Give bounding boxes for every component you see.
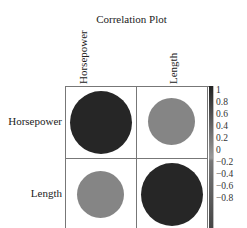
- colorbar-tick: 0.4: [216, 121, 228, 131]
- colorbar-tick: −0.4: [216, 169, 233, 179]
- chart-title: Correlation Plot: [0, 13, 247, 25]
- cell-length-length: [137, 159, 208, 228]
- colorbar-tick: −0.2: [216, 157, 233, 167]
- correlation-circle: [141, 163, 203, 226]
- row-label-length: Length: [2, 187, 62, 199]
- correlation-circle: [70, 91, 132, 154]
- row-label-horsepower: Horsepower: [2, 115, 62, 127]
- colorbar-tick: 0.2: [216, 133, 228, 143]
- cell-horsepower-length: [137, 87, 208, 159]
- colorbar-tick: −0.8: [216, 193, 233, 203]
- column-label-horsepower: Horsepower: [77, 30, 89, 84]
- correlation-circle: [77, 171, 124, 218]
- cell-length-horsepower: [66, 159, 137, 228]
- correlation-circle: [148, 98, 195, 145]
- correlation-grid: [65, 86, 209, 228]
- colorbar-tick: 1: [216, 85, 221, 95]
- colorbar-edge: [213, 86, 214, 228]
- colorbar-tick: −0.6: [216, 181, 233, 191]
- colorbar-tick: 0.6: [216, 109, 228, 119]
- cell-horsepower-horsepower: [66, 87, 137, 159]
- colorbar-tick: 0.8: [216, 97, 228, 107]
- colorbar-tick: 0: [216, 145, 221, 155]
- column-label-length: Length: [167, 53, 179, 84]
